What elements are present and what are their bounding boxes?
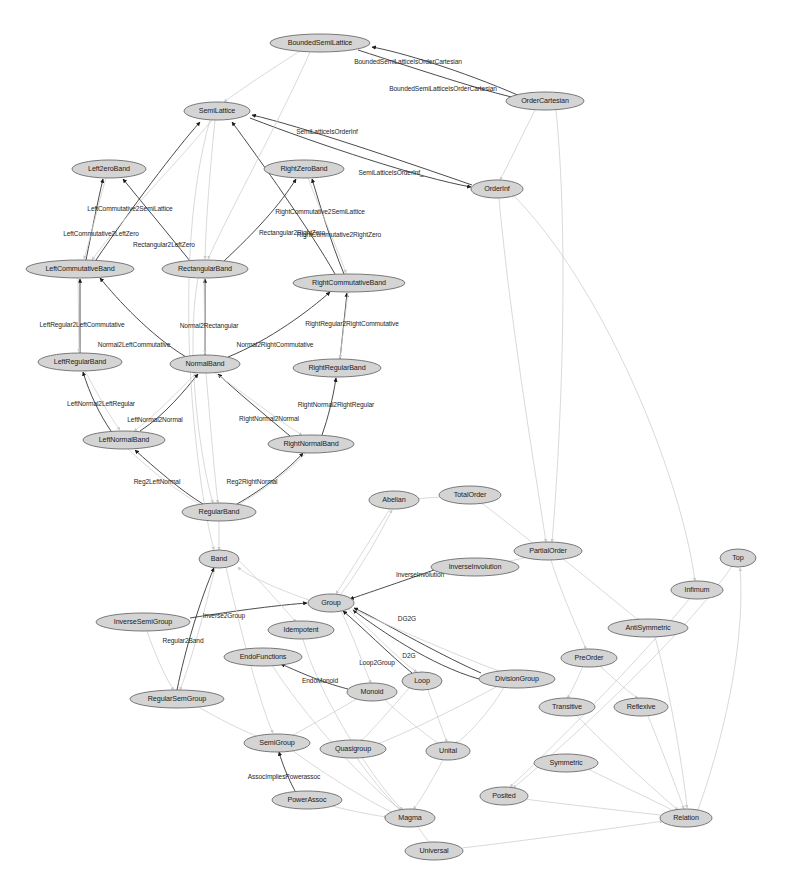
- edge-OrderCartesian-to-OrderInf: [500, 110, 535, 180]
- hierarchy-diagram: BoundedSemiLatticeIsOrderCartesianBounde…: [0, 0, 788, 890]
- edge-OrderInf-to-PartialOrder: [499, 198, 546, 542]
- node-Posited[interactable]: Posited: [480, 787, 528, 805]
- node-InverseInvolution[interactable]: InverseInvolution: [431, 558, 519, 576]
- edge-Group-to-Band: [238, 567, 309, 600]
- node-label: RegularBand: [199, 507, 240, 516]
- edge-RectangularBand-to-RegularBand: [193, 278, 213, 503]
- edge-label: Reg2LeftNormal: [134, 478, 181, 486]
- node-Band[interactable]: Band: [199, 550, 239, 568]
- node-label: Left2eroBand: [88, 164, 130, 173]
- edge-Posited-to-Relation: [524, 799, 670, 816]
- node-label: Infimum: [685, 585, 710, 594]
- edge-AntiSymmetric-to-Relation: [655, 637, 687, 808]
- node-Symmetric[interactable]: Symmetric: [534, 754, 598, 772]
- node-RectangularBand[interactable]: RectangularBand: [162, 260, 248, 278]
- node-RegularSemGroup[interactable]: RegularSemGroup: [130, 690, 224, 708]
- node-Loop[interactable]: Loop: [402, 672, 442, 690]
- edge-Abelian-to-Group: [336, 509, 390, 594]
- node-RightCommutativeBand[interactable]: RightCommutativeBand: [293, 274, 405, 292]
- node-label: AntiSymmetric: [625, 623, 671, 632]
- node-label: SemiLattice: [199, 106, 236, 115]
- node-SemiGroup[interactable]: SemiGroup: [244, 734, 310, 752]
- node-DivisionGroup[interactable]: DivisionGroup: [479, 670, 555, 688]
- node-label: LeftRegularBand: [54, 357, 107, 366]
- edge-label: EndoMonoid: [302, 677, 338, 684]
- node-label: LeftNormalBand: [99, 435, 150, 444]
- node-SemiLattice[interactable]: SemiLattice: [184, 102, 250, 120]
- node-label: PartialOrder: [529, 546, 567, 555]
- node-Universal[interactable]: Universal: [405, 842, 463, 860]
- edge-label: RightNormal2Normal: [239, 415, 299, 423]
- node-label: Monoid: [361, 687, 384, 696]
- edge-label: RightCommutative2SemiLattice: [275, 208, 365, 216]
- edge-Group-to-Abelian: [340, 510, 392, 595]
- node-RightZeroBand[interactable]: RightZeroBand: [264, 160, 344, 178]
- node-PreOrder[interactable]: PreOrder: [561, 649, 617, 667]
- node-label: InverseSemiGroup: [114, 617, 172, 626]
- edge-RightZeroBand-to-RightCommutativeBand: [308, 178, 346, 273]
- edge-RegularSemGroup-to-SemiGroup: [197, 706, 266, 740]
- node-EndoFunctions[interactable]: EndoFunctions: [224, 648, 302, 666]
- edge-PreOrder-to-Reflexive: [600, 666, 638, 698]
- node-LeftRegularBand[interactable]: LeftRegularBand: [38, 353, 122, 371]
- node-Idempotent[interactable]: Idempotent: [268, 621, 334, 639]
- node-TotalOrder[interactable]: TotalOrder: [439, 486, 501, 504]
- node-InverseSemiGroup[interactable]: InverseSemiGroup: [96, 613, 190, 631]
- node-label: OrderCartesian: [521, 96, 569, 105]
- node-Magma[interactable]: Magma: [385, 809, 435, 827]
- edge-label: SemiLatticeIsOrderInf: [296, 128, 358, 135]
- node-label: RightRegularBand: [308, 363, 365, 372]
- node-BoundedSemiLattice[interactable]: BoundedSemiLattice: [270, 34, 370, 52]
- node-OrderCartesian[interactable]: OrderCartesian: [506, 92, 584, 110]
- edge-Relation-to-Top: [698, 568, 741, 810]
- node-label: TotalOrder: [454, 490, 487, 499]
- edge-Reflexive-to-Relation: [648, 716, 684, 809]
- node-LeftCommutativeBand[interactable]: LeftCommutativeBand: [26, 260, 134, 278]
- edge-label: RightNormal2RightRegular: [298, 401, 375, 409]
- edge-label: Reg2RightNormal: [227, 478, 279, 486]
- node-Infimum[interactable]: Infimum: [671, 581, 723, 599]
- edge-label: LeftNormal2LeftRegular: [67, 400, 136, 408]
- edge-RectangularBand-to-Left2eroBand: [123, 179, 190, 261]
- edge-RegularSemGroup-to-Band: [177, 568, 214, 690]
- edge-label: SemiLatticeIsOrderInf_: [358, 169, 424, 177]
- nodes-layer: BoundedSemiLatticeOrderCartesianSemiLatt…: [26, 34, 756, 860]
- node-LeftNormalBand[interactable]: LeftNormalBand: [83, 431, 165, 449]
- edge-label: LeftNormal2Normal: [127, 416, 183, 423]
- node-Top[interactable]: Top: [720, 549, 756, 567]
- node-label: Group: [321, 598, 341, 607]
- node-label: Unital: [439, 746, 457, 755]
- node-Reflexive[interactable]: Reflexive: [614, 698, 668, 716]
- node-label: NormalBand: [186, 359, 225, 368]
- node-Transitive[interactable]: Transitive: [539, 698, 595, 716]
- node-Unital[interactable]: Unital: [426, 742, 470, 760]
- node-NormalBand[interactable]: NormalBand: [170, 355, 240, 373]
- edge-BoundedSemiLattice-to-SemiLattice: [224, 51, 300, 102]
- node-OrderInf[interactable]: OrderInf: [471, 180, 523, 198]
- node-AntiSymmetric[interactable]: AntiSymmetric: [608, 619, 688, 637]
- node-Quasigroup[interactable]: Quasigroup: [320, 740, 386, 758]
- node-label: RegularSemGroup: [148, 694, 207, 703]
- node-RightNormalBand[interactable]: RightNormalBand: [268, 435, 354, 453]
- node-PartialOrder[interactable]: PartialOrder: [514, 542, 582, 560]
- node-label: EndoFunctions: [240, 652, 287, 661]
- node-Monoid[interactable]: Monoid: [347, 683, 397, 701]
- node-PowerAssoc[interactable]: PowerAssoc: [272, 791, 342, 809]
- edges-layer: [78, 47, 741, 848]
- node-RegularBand[interactable]: RegularBand: [182, 503, 256, 521]
- node-Left2eroBand[interactable]: Left2eroBand: [72, 160, 146, 178]
- node-Abelian[interactable]: Abelian: [369, 491, 419, 509]
- graph-canvas: BoundedSemiLatticeIsOrderCartesianBounde…: [0, 0, 788, 890]
- node-label: Reflexive: [627, 702, 656, 711]
- node-Group[interactable]: Group: [308, 594, 354, 612]
- edge-label: RightCommutative2RightZero: [297, 231, 382, 239]
- edge-label: LeftCommutative2SemiLattice: [87, 205, 173, 212]
- edge-OrderCartesian-to-PartialOrder: [552, 110, 563, 542]
- edge-PartialOrder-to-TotalOrder: [477, 500, 534, 544]
- edge-Universal-to-Relation: [462, 821, 663, 848]
- node-label: Magma: [398, 813, 422, 822]
- node-RightRegularBand[interactable]: RightRegularBand: [293, 359, 381, 377]
- edge-OrderInf-to-Infimum: [510, 192, 695, 581]
- edge-label: Inverse2Group: [203, 612, 246, 620]
- node-Relation[interactable]: Relation: [660, 809, 712, 827]
